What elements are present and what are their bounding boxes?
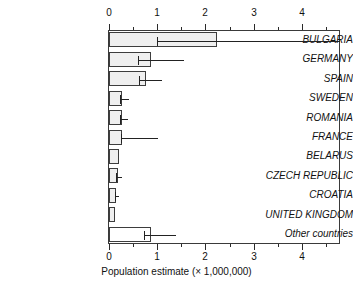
top-tick [230, 27, 231, 30]
x-axis-tick-label-top: 4 [292, 8, 312, 18]
x-axis-tick-label-top: 3 [244, 8, 264, 18]
category-label: UNITED KINGDOM [249, 209, 353, 220]
bottom-tick [205, 244, 206, 250]
category-label: ROMANIA [249, 112, 353, 123]
top-tick [109, 24, 110, 30]
x-axis-tick-label-bottom: 3 [244, 252, 264, 262]
bottom-tick [326, 244, 327, 247]
bottom-tick [157, 244, 158, 250]
top-tick [326, 27, 327, 30]
error-bar-line [157, 41, 340, 42]
category-label: SWEDEN [249, 92, 353, 103]
error-bar-line [139, 80, 162, 81]
bottom-tick [302, 244, 303, 250]
bottom-tick [254, 244, 255, 250]
error-bar-line [120, 99, 129, 100]
x-axis-tick-label-bottom: 2 [195, 252, 215, 262]
category-label: BELARUS [249, 150, 353, 161]
top-tick [157, 24, 158, 30]
x-axis-tick-label-top: 0 [99, 8, 119, 18]
bar [109, 71, 146, 86]
x-axis-tick-label-bottom: 4 [292, 252, 312, 262]
error-bar-cap-low [139, 76, 140, 85]
category-label: SPAIN [249, 73, 353, 84]
bar [109, 207, 115, 222]
top-tick [302, 24, 303, 30]
bar [109, 32, 217, 47]
error-bar-cap-low [115, 192, 116, 201]
error-bar-line [121, 138, 158, 139]
bar [109, 149, 119, 164]
top-tick [278, 27, 279, 30]
top-tick [254, 24, 255, 30]
error-bar-cap-low [116, 173, 117, 182]
bottom-tick [230, 244, 231, 247]
error-bar-cap-low [144, 231, 145, 240]
error-bar-cap-low [157, 37, 158, 46]
x-axis-tick-label-top: 2 [195, 8, 215, 18]
category-label: CROATIA [249, 189, 353, 200]
error-bar-cap-low [120, 115, 121, 124]
bottom-tick [109, 244, 110, 250]
error-bar-cap-low [138, 56, 139, 65]
bottom-tick [278, 244, 279, 247]
x-axis-tick-label-bottom: 1 [147, 252, 167, 262]
category-label: BULGARIA [249, 34, 353, 45]
error-bar-line [138, 60, 184, 61]
error-bar-cap-low [120, 95, 121, 104]
error-bar-cap-low [121, 134, 122, 143]
error-bar-line [120, 119, 128, 120]
bottom-tick [133, 244, 134, 247]
error-bar-line [144, 235, 176, 236]
category-label: Other countries [249, 228, 353, 239]
top-tick [181, 27, 182, 30]
chart-figure: 0011223344BULGARIAGERMANYSPAINSWEDENROMA… [0, 0, 353, 288]
top-tick [205, 24, 206, 30]
x-axis-title: Population estimate (× 1,000,000) [0, 266, 353, 277]
bottom-tick [181, 244, 182, 247]
x-axis-tick-label-bottom: 0 [99, 252, 119, 262]
category-label: GERMANY [249, 53, 353, 64]
x-axis-tick-label-top: 1 [147, 8, 167, 18]
top-tick [133, 27, 134, 30]
category-label: CZECH REPUBLIC [249, 170, 353, 181]
category-label: FRANCE [249, 131, 353, 142]
